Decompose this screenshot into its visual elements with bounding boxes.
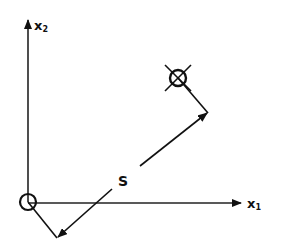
distance-s-label: S — [118, 173, 128, 189]
x2-axis-label: x2 — [34, 18, 48, 34]
diagram-canvas: x2 x1 S — [0, 0, 281, 251]
target-offset-line — [178, 78, 208, 113]
distance-s-dimension — [58, 113, 207, 237]
origin-offset-line — [28, 202, 57, 238]
x1-axis-label: x1 — [247, 196, 261, 212]
